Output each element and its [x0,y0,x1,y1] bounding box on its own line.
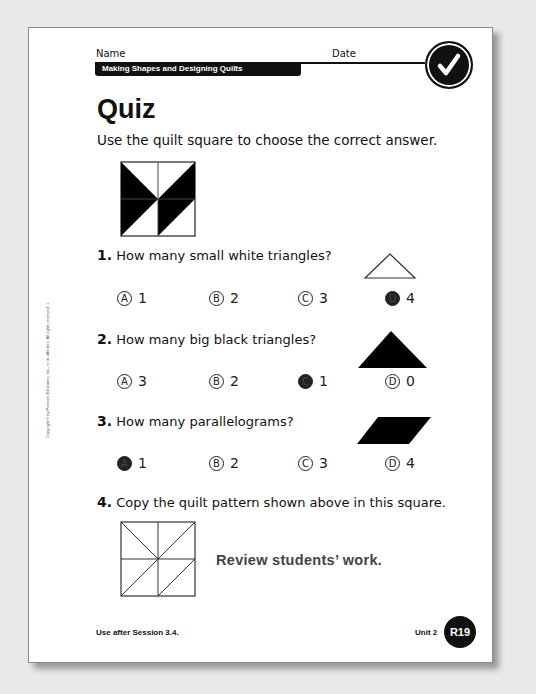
answer-option[interactable]: B 2 [209,455,239,471]
answer-value: 4 [406,290,415,306]
black-triangle-icon [357,330,429,370]
white-triangle-icon [363,252,417,280]
question-text: Copy the quilt pattern shown above in th… [116,495,446,510]
answer-option[interactable]: B 2 [209,290,239,306]
question-text: How many big black triangles? [116,332,316,347]
answer-value: 2 [230,290,239,306]
instructions: Use the quilt square to choose the corre… [97,132,437,148]
answer-value: 0 [406,373,415,389]
question-3: 3. How many parallelograms? [97,413,294,429]
answer-bubble[interactable]: A [117,374,132,389]
question-number: 1. [97,247,112,263]
session-note: Use after Session 3.4. [96,628,179,637]
answer-bubble-filled[interactable]: A [117,456,132,471]
answer-row-1: A 1 B 2 C 3 D 4 [117,290,457,310]
answer-value: 1 [138,290,147,306]
worksheet-page: Name Date Making Shapes and Designing Qu… [28,27,493,663]
answer-option[interactable]: C 3 [298,290,328,306]
answer-option-selected[interactable]: C 1 [298,373,328,389]
answer-option-selected[interactable]: A 1 [117,455,147,471]
answer-option-selected[interactable]: D 4 [385,290,415,306]
answer-bubble[interactable]: B [209,374,224,389]
question-number: 2. [97,331,112,347]
quilt-copy-square[interactable] [120,521,196,597]
question-text: How many parallelograms? [116,414,293,429]
answer-bubble[interactable]: D [385,456,400,471]
question-1: 1. How many small white triangles? [97,247,332,263]
question-number: 3. [97,413,112,429]
answer-option[interactable]: D 4 [385,455,415,471]
review-note: Review students’ work. [216,552,382,568]
question-4: 4. Copy the quilt pattern shown above in… [97,494,446,510]
answer-bubble-filled[interactable]: C [298,374,313,389]
answer-bubble[interactable]: C [298,291,313,306]
answer-bubble[interactable]: C [298,456,313,471]
black-parallelogram-icon [356,416,432,446]
answer-option[interactable]: A 1 [117,290,147,306]
answer-value: 2 [230,373,239,389]
quilt-square-figure [120,161,196,237]
question-text: How many small white triangles? [116,248,331,263]
answer-bubble[interactable]: B [209,291,224,306]
page-title: Quiz [97,94,156,125]
answer-bubble[interactable]: B [209,456,224,471]
answer-option[interactable]: A 3 [117,373,147,389]
answer-option[interactable]: C 3 [298,455,328,471]
answer-value: 4 [406,455,415,471]
answer-bubble-filled[interactable]: D [385,291,400,306]
unit-title-bar: Making Shapes and Designing Quilts [95,62,301,76]
answer-bubble[interactable]: D [385,374,400,389]
answer-value: 3 [319,290,328,306]
answer-value: 3 [138,373,147,389]
page-number-badge: R19 [444,616,476,648]
question-number: 4. [97,494,112,510]
copyright-notice: Copyright © by Pearson Education, Inc., … [45,303,50,438]
unit-label: Unit 2 [415,628,437,637]
answer-bubble[interactable]: A [117,291,132,306]
name-label: Name [96,48,126,59]
answer-row-2: A 3 B 2 C 1 D 0 [117,373,457,393]
answer-option[interactable]: D 0 [385,373,415,389]
answer-value: 1 [138,455,147,471]
question-2: 2. How many big black triangles? [97,331,316,347]
answer-value: 3 [319,455,328,471]
answer-row-3: A 1 B 2 C 3 D 4 [117,455,457,475]
date-label: Date [332,48,356,59]
answer-value: 1 [319,373,328,389]
answer-value: 2 [230,455,239,471]
checkmark-icon [425,41,473,89]
answer-option[interactable]: B 2 [209,373,239,389]
